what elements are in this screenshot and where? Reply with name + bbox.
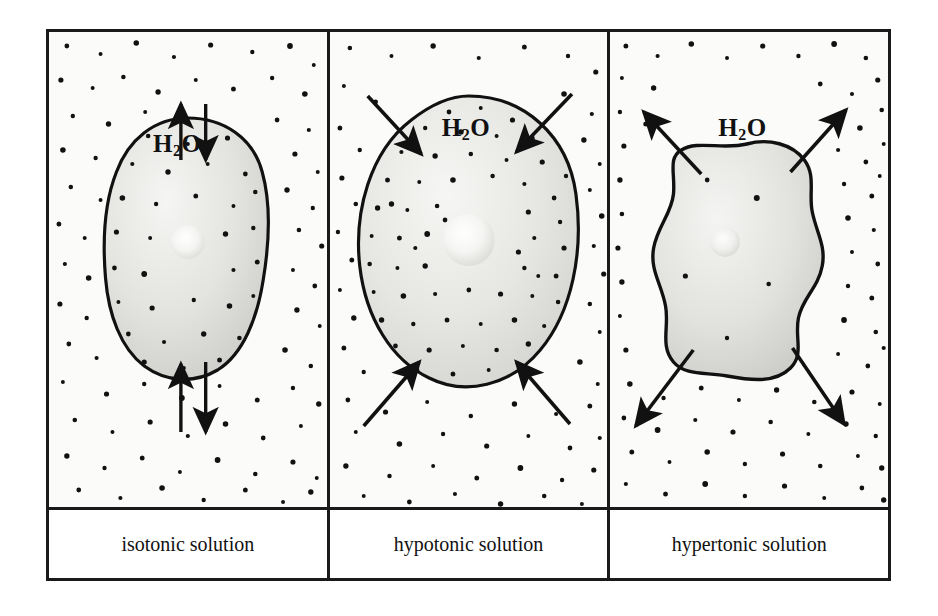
- hypertonic-illustration: [610, 32, 888, 513]
- nucleus: [711, 227, 741, 257]
- cell-membrane: [653, 142, 823, 380]
- caption-isotonic: isotonic solution: [121, 533, 254, 556]
- caption-row: isotonic solution hypotonic solution hyp…: [49, 507, 888, 578]
- water-label-hypertonic: H2O: [718, 114, 766, 144]
- isotonic-illustration: [49, 32, 327, 513]
- panel-isotonic: H2O: [49, 32, 327, 513]
- water-label-hypotonic: H2O: [442, 114, 490, 144]
- water-label-isotonic: H2O: [153, 130, 201, 160]
- caption-hypotonic: hypotonic solution: [394, 533, 543, 556]
- caption-cell-hypertonic: hypertonic solution: [607, 510, 888, 578]
- nucleus: [443, 214, 495, 266]
- water-label-text: H2O: [718, 114, 766, 141]
- caption-hypertonic: hypertonic solution: [672, 533, 827, 556]
- hypotonic-illustration: [330, 32, 608, 513]
- water-label-text: H2O: [153, 130, 201, 157]
- caption-cell-isotonic: isotonic solution: [49, 510, 327, 578]
- panel-hypertonic: H2O: [607, 32, 888, 513]
- nucleus: [171, 225, 205, 259]
- osmosis-figure: H2O: [0, 0, 938, 616]
- water-label-text: H2O: [442, 114, 490, 141]
- panel-row: H2O: [49, 32, 888, 513]
- panel-hypotonic: H2O: [327, 32, 608, 513]
- figure-plate: H2O: [46, 29, 891, 581]
- caption-cell-hypotonic: hypotonic solution: [327, 510, 608, 578]
